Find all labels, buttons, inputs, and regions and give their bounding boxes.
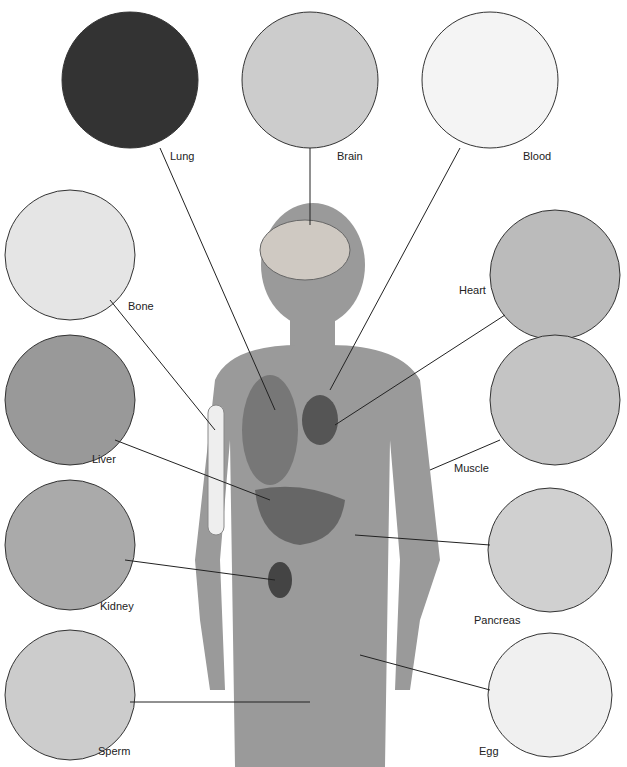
label-blood: Blood bbox=[523, 150, 551, 162]
label-pancreas: Pancreas bbox=[474, 614, 520, 626]
heart-cell-circle bbox=[490, 210, 620, 340]
heart-organ bbox=[302, 395, 338, 445]
muscle-cell-circle bbox=[490, 335, 620, 465]
brain-organ bbox=[260, 220, 350, 280]
diagram-canvas bbox=[0, 0, 627, 767]
label-lung: Lung bbox=[170, 150, 194, 162]
egg-cell-circle bbox=[488, 633, 612, 757]
label-bone: Bone bbox=[128, 300, 154, 312]
pancreas-cell-circle bbox=[488, 488, 612, 612]
liver-cell-circle bbox=[5, 335, 135, 465]
bone-cell-circle bbox=[5, 190, 135, 320]
label-heart: Heart bbox=[459, 284, 486, 296]
label-muscle: Muscle bbox=[454, 462, 489, 474]
label-egg: Egg bbox=[479, 745, 499, 757]
kidney-cell-circle bbox=[5, 480, 135, 610]
label-brain: Brain bbox=[337, 150, 363, 162]
label-sperm: Sperm bbox=[98, 745, 130, 757]
blood-cell-circle bbox=[422, 12, 558, 148]
label-liver: Liver bbox=[92, 453, 116, 465]
sperm-cell-circle bbox=[5, 630, 135, 760]
lung-cell-circle bbox=[62, 12, 198, 148]
brain-cell-circle bbox=[242, 12, 378, 148]
label-kidney: Kidney bbox=[100, 600, 134, 612]
lung-organ bbox=[242, 375, 298, 485]
